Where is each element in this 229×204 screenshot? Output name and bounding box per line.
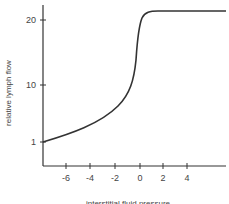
x-tick-4: 4 (184, 173, 189, 183)
y-tick-10: 10 (26, 80, 36, 90)
x-tick--6: -6 (62, 173, 70, 183)
x-tick-0: 0 (137, 173, 142, 183)
x-tick--2: -2 (111, 173, 119, 183)
x-axis-title: interstitial fluid pressure (86, 199, 171, 204)
lymph-flow-curve (43, 11, 226, 142)
y-tick-20: 20 (26, 15, 36, 25)
y-tick-labels: 20 10 1 (26, 15, 36, 147)
chart-canvas: 20 10 1 -6 -4 -2 0 2 4 relative lymph fl… (0, 0, 229, 204)
y-axis-title: relative lymph flow (4, 60, 13, 126)
x-tick-2: 2 (160, 173, 165, 183)
x-tick-labels: -6 -4 -2 0 2 4 (62, 173, 190, 183)
x-tick--4: -4 (86, 173, 94, 183)
y-tick-1: 1 (31, 137, 36, 147)
